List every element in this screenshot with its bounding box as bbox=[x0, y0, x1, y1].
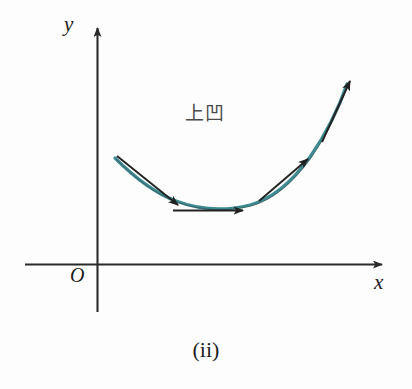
tangent-arrow-middle-ascending bbox=[259, 159, 308, 201]
x-axis-label: x bbox=[374, 272, 383, 293]
tangent-arrow-upper-ascending bbox=[322, 81, 350, 142]
tangent-arrow-left-descending bbox=[117, 156, 178, 205]
y-axis-label: y bbox=[64, 14, 73, 35]
concave-up-curve bbox=[115, 84, 347, 209]
curve-pencil-trace bbox=[116, 85, 348, 210]
origin-label: O bbox=[70, 265, 84, 285]
figure-caption: (ii) bbox=[0, 337, 412, 363]
figure-container: y x O 上凹 (ii) bbox=[0, 0, 412, 389]
concave-up-annotation: 上凹 bbox=[185, 103, 225, 124]
figure-canvas bbox=[0, 0, 412, 389]
